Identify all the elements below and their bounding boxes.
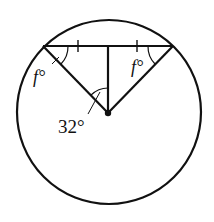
- circle-diagram: f° f° 32°: [0, 0, 214, 222]
- radius-left: [43, 46, 108, 113]
- angle-label-left: f°: [33, 67, 45, 87]
- angle-label-center: 32°: [58, 116, 85, 137]
- angle-label-right: f°: [131, 57, 143, 77]
- angle-arc-left: [61, 46, 68, 64]
- angle-arc-right: [148, 46, 155, 64]
- center-point: [105, 110, 111, 116]
